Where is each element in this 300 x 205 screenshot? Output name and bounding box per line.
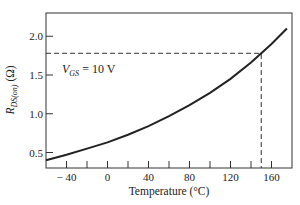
- x-axis-label: Temperature (°C): [129, 185, 210, 198]
- tick-label: 0.5: [29, 147, 43, 159]
- rds-on-curve: [46, 29, 287, 161]
- axis-ticks: [46, 36, 272, 168]
- tick-label: 1.5: [29, 69, 43, 81]
- tick-label: 120: [222, 171, 239, 183]
- tick-label: 160: [263, 171, 280, 183]
- tick-label: 1.0: [29, 108, 43, 120]
- tick-label: − 40: [57, 171, 77, 183]
- annotation-vgs: VGS = 10 V: [62, 62, 116, 78]
- tick-label: 2.0: [29, 30, 43, 42]
- tick-label: 0: [105, 171, 111, 183]
- plot-frame: [46, 13, 292, 168]
- tick-label: 40: [143, 171, 155, 183]
- chart: − 40040801201600.51.01.52.0 VGS = 10 V T…: [0, 0, 300, 205]
- tick-label: 80: [184, 171, 196, 183]
- y-axis-label: RDS(on) (Ω): [4, 65, 19, 115]
